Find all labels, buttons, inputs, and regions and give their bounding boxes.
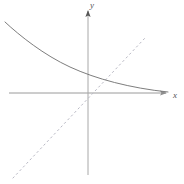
y-axis-label: y: [90, 1, 94, 10]
graph-figure: x y: [0, 0, 184, 184]
plot-canvas: [0, 0, 184, 184]
exponential-decay-curve: [5, 22, 168, 92]
identity-line-dashed: [13, 38, 145, 178]
x-axis-label: x: [173, 91, 177, 100]
